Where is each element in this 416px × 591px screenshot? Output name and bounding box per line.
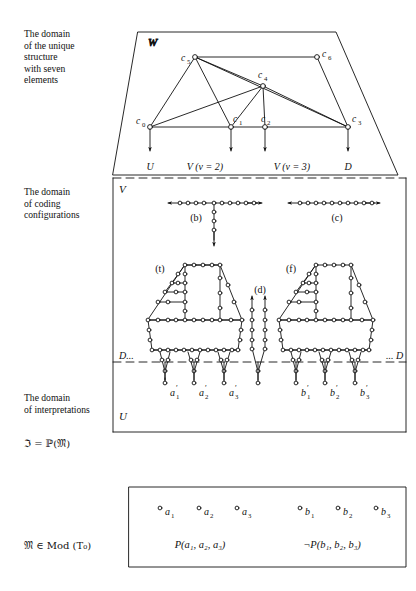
config-label-c: (c) [331, 212, 342, 224]
node-label-c5-sub: 5 [187, 58, 191, 65]
node-label-c0: c [136, 116, 141, 126]
model-label-b2: b [343, 506, 348, 517]
model-label-a3: a [242, 506, 247, 517]
model-label-a3-sub: 3 [248, 512, 252, 519]
arrow-label-U: U [146, 161, 154, 172]
node-label-c5: c [181, 53, 186, 63]
config-label-t: (t) [155, 263, 164, 275]
interp-label-b3: b [360, 387, 365, 398]
model-label-a2-sub: 2 [210, 512, 214, 519]
interp-label-b2: b [330, 387, 335, 398]
interp-label-b1: b [301, 387, 306, 398]
interp-label-b2-sub: 2 [336, 393, 340, 400]
node-label-c4-sub: 4 [264, 75, 268, 82]
model-label-a1: a [165, 506, 170, 517]
config-f [277, 263, 375, 380]
node-label-c6: c [322, 49, 327, 59]
boundary-label-d-left: D... [118, 350, 134, 361]
interp-label-a3-prime: ′ [235, 384, 237, 393]
interpretation-nodes [163, 381, 357, 385]
model-label-b2-sub: 2 [349, 512, 353, 519]
model-label-a2: a [204, 506, 209, 517]
interp-label-a2-prime: ′ [205, 384, 207, 393]
region-label-v: V [119, 183, 127, 195]
interp-label-a1: a [170, 387, 175, 398]
arrow-label-V3: V (v = 3) [274, 161, 311, 173]
interp-label-b3-prime: ′ [366, 384, 368, 393]
interp-label-a2-sub: 2 [205, 393, 209, 400]
top-down-arrows [150, 129, 348, 151]
region-label-u: U [119, 410, 128, 422]
structure-nodes [148, 55, 351, 130]
node-label-c2-sub: 2 [267, 119, 271, 126]
node-label-c1-sub: 1 [239, 119, 242, 126]
interp-label-b2-prime: ′ [336, 384, 338, 393]
model-formula-not-p: ¬P(b₁, b₂, b₃) [303, 539, 361, 551]
config-d [250, 296, 267, 380]
model-label-b3: b [381, 506, 386, 517]
interp-label-a2: a [199, 387, 204, 398]
interp-label-a1-prime: ′ [176, 384, 178, 393]
model-formula-p: P(a₁, a₂, a₃) [174, 539, 226, 551]
model-label-a1-sub: 1 [171, 512, 174, 519]
config-t [146, 263, 244, 380]
model-panel-outline [129, 487, 406, 567]
node-label-c6-sub: 6 [328, 54, 332, 61]
node-label-c0-sub: 0 [142, 121, 146, 128]
boundary-label-d-right: ... D [386, 350, 404, 361]
config-b [168, 201, 262, 246]
arrow-label-D: D [343, 161, 352, 172]
model-label-b1: b [305, 506, 310, 517]
node-label-c4: c [258, 70, 263, 80]
node-label-c2: c [261, 114, 266, 124]
figure-canvas: W c 0 c [0, 0, 416, 591]
structure-edges [150, 57, 348, 127]
interp-label-b1-sub: 1 [307, 393, 310, 400]
config-label-f: (f) [286, 263, 296, 275]
interp-label-a3: a [229, 387, 234, 398]
interp-label-a3-sub: 3 [235, 393, 239, 400]
interp-label-a1-sub: 1 [176, 393, 179, 400]
interp-label-b3-sub: 3 [366, 393, 370, 400]
top-panel-outline [113, 32, 398, 175]
interp-label-b1-prime: ′ [307, 384, 309, 393]
node-label-c3: c [352, 114, 357, 124]
config-label-d: (d) [254, 284, 266, 296]
node-label-c3-sub: 3 [358, 119, 362, 126]
config-label-b: (b) [190, 212, 202, 224]
region-label-w: W [148, 36, 158, 48]
model-label-b1-sub: 1 [311, 512, 314, 519]
config-c [288, 201, 380, 205]
model-label-b3-sub: 3 [387, 512, 391, 519]
arrow-label-V2: V (v = 2) [187, 161, 224, 173]
